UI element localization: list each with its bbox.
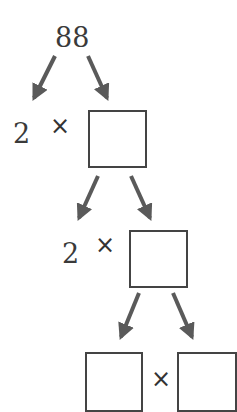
arrow-l1-right — [131, 176, 150, 218]
level1-answer-box[interactable] — [88, 110, 147, 168]
level3-right-answer-box[interactable] — [177, 352, 237, 412]
arrow-l2-right — [173, 293, 192, 337]
level2-answer-box[interactable] — [129, 230, 188, 288]
arrow-root-left — [34, 56, 55, 98]
root-number: 88 — [55, 24, 89, 51]
level1-factor: 2 — [13, 120, 30, 147]
arrow-root-right — [88, 56, 107, 98]
level2-times-sign: × — [95, 233, 115, 257]
level3-times-sign: × — [151, 367, 171, 391]
arrow-l1-left — [79, 176, 98, 218]
level1-times-sign: × — [50, 114, 70, 138]
level2-factor: 2 — [62, 240, 79, 267]
level3-left-answer-box[interactable] — [85, 352, 143, 412]
arrow-l2-left — [121, 293, 139, 337]
